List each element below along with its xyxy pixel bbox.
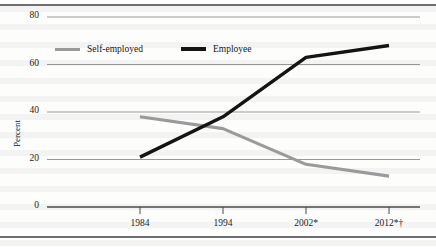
line-chart-plot: [0, 0, 436, 247]
x-tick-marks: [140, 207, 389, 214]
y-axis-title: Percent: [12, 120, 22, 147]
legend-label-employee: Employee: [213, 44, 252, 54]
chart-figure: 80 60 40 20 0 Percent 1984 1994 2002* 20…: [0, 0, 436, 247]
series-line-employee: [140, 46, 389, 158]
x-tick-label-1984: 1984: [110, 218, 170, 228]
legend-swatch-employee-icon: [181, 47, 206, 51]
chart-legend: Self-employed Employee: [55, 44, 251, 54]
x-tick-label-1994: 1994: [193, 218, 253, 228]
x-tick-label-2002: 2002*: [276, 218, 336, 228]
legend-entry-self-employed: Self-employed: [55, 44, 143, 54]
y-tick-label-60: 60: [21, 58, 39, 68]
y-tick-label-80: 80: [21, 10, 39, 20]
legend-entry-employee: Employee: [181, 44, 252, 54]
y-tick-label-20: 20: [21, 153, 39, 163]
y-tick-label-40: 40: [21, 105, 39, 115]
y-tick-label-0: 0: [21, 200, 39, 210]
legend-label-self-employed: Self-employed: [87, 44, 143, 54]
series-line-self-employed: [140, 117, 389, 176]
legend-swatch-self-employed-icon: [55, 48, 80, 51]
x-tick-label-2012: 2012*†: [359, 218, 419, 228]
y-gridlines: [47, 17, 420, 160]
